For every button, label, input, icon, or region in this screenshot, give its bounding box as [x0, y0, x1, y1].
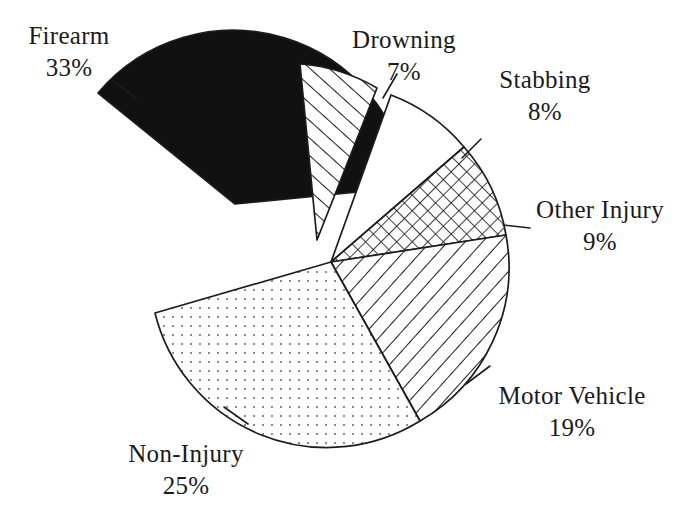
slice-label-other-injury-name: Other Injury	[536, 196, 664, 223]
slice-label-firearm-name: Firearm	[28, 22, 109, 49]
slice-label-firearm-percent: 33%	[46, 54, 93, 81]
slice-label-non-injury-name: Non-Injury	[128, 440, 244, 467]
slice-label-drowning-percent: 7%	[387, 58, 421, 85]
slice-label-other-injury-percent: 9%	[583, 228, 617, 255]
slice-label-drowning-name: Drowning	[352, 26, 456, 53]
slice-label-stabbing-percent: 8%	[528, 98, 562, 125]
slice-label-non-injury-percent: 25%	[163, 472, 210, 499]
slice-label-motor-vehicle-name: Motor Vehicle	[498, 382, 645, 409]
slice-label-motor-vehicle-percent: 19%	[549, 414, 596, 441]
pie-chart-canvas: Firearm 33% Drowning 7% Stabbing 8% Othe…	[0, 0, 683, 515]
slice-label-stabbing-name: Stabbing	[499, 66, 590, 93]
pie-chart-figure: Firearm 33% Drowning 7% Stabbing 8% Othe…	[0, 0, 683, 515]
